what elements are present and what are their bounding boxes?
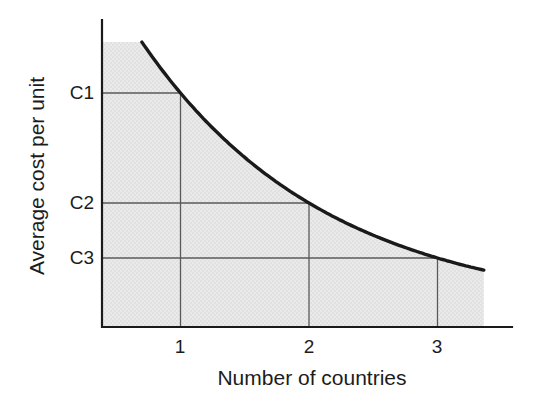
y-tick-label-c2: C2 xyxy=(50,192,94,214)
y-tick-label-c1: C1 xyxy=(50,82,94,104)
x-tick-label-1: 1 xyxy=(158,336,202,358)
x-tick-label-3: 3 xyxy=(415,336,459,358)
x-axis-title: Number of countries xyxy=(162,365,462,391)
average-cost-chart: C1 C2 C3 1 2 3 Average cost per unit Num… xyxy=(0,0,536,411)
y-tick-label-c3: C3 xyxy=(50,247,94,269)
y-axis-title: Average cost per unit xyxy=(24,46,50,306)
shaded-area-under-curve xyxy=(102,42,484,327)
x-tick-label-2: 2 xyxy=(287,336,331,358)
